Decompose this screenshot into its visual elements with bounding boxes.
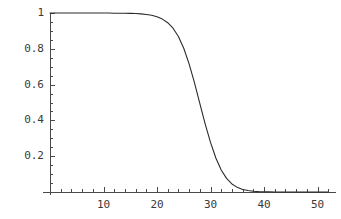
x-axis-tick-label: 40 bbox=[244, 199, 284, 210]
x-axis-tick-label: 30 bbox=[191, 199, 231, 210]
chart-canvas bbox=[0, 0, 341, 219]
x-axis-tick-label: 10 bbox=[84, 199, 124, 210]
data-series-line bbox=[50, 13, 328, 192]
x-axis-tick-label: 50 bbox=[298, 199, 338, 210]
y-axis-tick-label: 0.4 bbox=[0, 114, 44, 125]
x-axis-tick-label: 20 bbox=[137, 199, 177, 210]
plot-screenshot: 1020304050 0.20.40.60.81 bbox=[0, 0, 341, 219]
y-axis-tick-label: 0.8 bbox=[0, 43, 44, 54]
y-axis-tick-label: 1 bbox=[0, 7, 44, 18]
chart-plot-area: 1020304050 0.20.40.60.81 bbox=[0, 0, 341, 219]
y-axis-tick-label: 0.6 bbox=[0, 79, 44, 90]
y-axis-tick-label: 0.2 bbox=[0, 150, 44, 161]
